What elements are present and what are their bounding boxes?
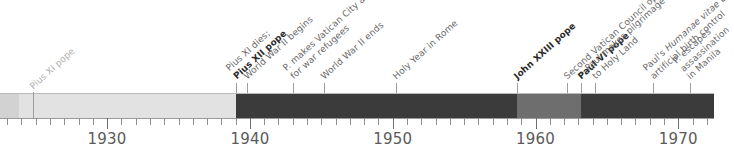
event-leader-line (293, 83, 294, 93)
axis-minor-tick (593, 118, 594, 125)
axis-major-tick (107, 118, 108, 129)
axis-minor-tick (550, 118, 551, 125)
event-leader-line (581, 83, 582, 93)
axis-minor-tick (21, 118, 22, 125)
era-band-track (0, 93, 714, 118)
axis-minor-tick (707, 118, 708, 125)
axis-tick-label: 1940 (230, 130, 269, 148)
axis-minor-tick (164, 118, 165, 125)
era-band-segment (19, 93, 236, 118)
axis-minor-tick (64, 118, 65, 125)
axis-minor-tick (321, 118, 322, 125)
axis-minor-tick (493, 118, 494, 125)
axis-minor-tick (521, 118, 522, 125)
axis-minor-tick (635, 118, 636, 125)
era-band-segment (236, 93, 517, 118)
event-label-line: Pius XI pope (28, 45, 77, 91)
axis-minor-tick (664, 118, 665, 125)
axis-minor-tick (564, 118, 565, 125)
axis-tick-label: 1930 (88, 130, 127, 148)
event-leader-line (324, 83, 325, 93)
event-label: Holy Year in Rome (391, 17, 460, 81)
era-band-segment (0, 93, 19, 118)
axis-minor-tick (464, 118, 465, 125)
axis-minor-tick (336, 118, 337, 125)
axis-major-tick (678, 118, 679, 129)
axis-minor-tick (607, 118, 608, 125)
event-leader-line (653, 83, 654, 93)
axis-minor-tick (350, 118, 351, 125)
axis-minor-tick (693, 118, 694, 125)
event-leader-line (595, 83, 596, 93)
axis-minor-tick (179, 118, 180, 125)
axis-minor-tick (621, 118, 622, 125)
axis-minor-tick (450, 118, 451, 125)
axis-major-tick (250, 118, 251, 129)
axis-minor-tick (307, 118, 308, 125)
axis-minor-tick (421, 118, 422, 125)
event-label: Pius XI pope (28, 45, 77, 91)
axis-minor-tick (7, 118, 8, 125)
axis-minor-tick (79, 118, 80, 125)
event-leader-line (236, 83, 237, 93)
axis-minor-tick (50, 118, 51, 125)
axis-minor-tick (193, 118, 194, 125)
band-top-rule (0, 93, 714, 94)
axis-tick-label: 1970 (659, 130, 698, 148)
axis-minor-tick (293, 118, 294, 125)
axis-minor-tick (364, 118, 365, 125)
axis-tick-label: 1960 (516, 130, 555, 148)
axis-minor-tick (507, 118, 508, 125)
axis-minor-tick (121, 118, 122, 125)
axis-minor-tick (407, 118, 408, 125)
axis-minor-tick (278, 118, 279, 125)
era-band-segment (581, 93, 714, 118)
axis-minor-tick (264, 118, 265, 125)
axis-minor-tick (436, 118, 437, 125)
event-leader-line (567, 83, 568, 93)
axis-minor-tick (93, 118, 94, 125)
axis-minor-tick (136, 118, 137, 125)
era-band-segment (517, 93, 581, 118)
axis-minor-tick (150, 118, 151, 125)
event-leader-line (33, 92, 34, 118)
axis-minor-tick (221, 118, 222, 125)
event-label-line: Holy Year in Rome (391, 17, 460, 81)
axis-major-tick (393, 118, 394, 129)
axis-minor-tick (578, 118, 579, 125)
axis-major-tick (536, 118, 537, 129)
axis-minor-tick (207, 118, 208, 125)
axis-minor-tick (478, 118, 479, 125)
event-leader-line (396, 83, 397, 93)
axis-minor-tick (650, 118, 651, 125)
event-leader-line (517, 83, 518, 93)
axis-minor-tick (378, 118, 379, 125)
axis-tick-label: 1950 (373, 130, 412, 148)
event-leader-line (247, 83, 248, 93)
event-leader-line (690, 83, 691, 93)
axis-minor-tick (236, 118, 237, 125)
axis-minor-tick (36, 118, 37, 125)
